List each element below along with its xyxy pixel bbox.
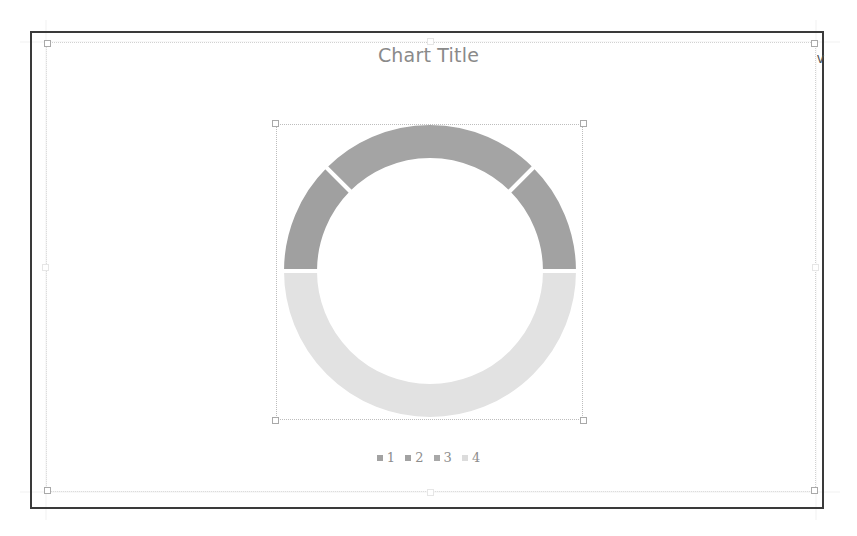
legend-item-3[interactable]: 3: [434, 450, 452, 465]
plot-area-handle-top-right[interactable]: [580, 120, 587, 127]
plot-area-handle-bottom-right[interactable]: [580, 417, 587, 424]
legend-swatch-icon: [405, 455, 411, 461]
legend-item-4[interactable]: 4: [462, 450, 480, 465]
legend-label: 2: [415, 450, 423, 465]
legend-item-2[interactable]: 2: [405, 450, 423, 465]
legend-swatch-icon: [434, 455, 440, 461]
legend-label: 3: [444, 450, 452, 465]
plot-area[interactable]: [276, 124, 583, 420]
legend-label: 1: [387, 450, 395, 465]
legend-swatch-icon: [377, 455, 383, 461]
plot-area-handle-top-left[interactable]: [272, 120, 279, 127]
plot-area-handle-bottom-left[interactable]: [272, 417, 279, 424]
legend-label: 4: [472, 450, 480, 465]
legend-item-1[interactable]: 1: [377, 450, 395, 465]
legend-swatch-icon: [462, 455, 468, 461]
chart-legend[interactable]: 1 2 3 4: [0, 450, 857, 465]
